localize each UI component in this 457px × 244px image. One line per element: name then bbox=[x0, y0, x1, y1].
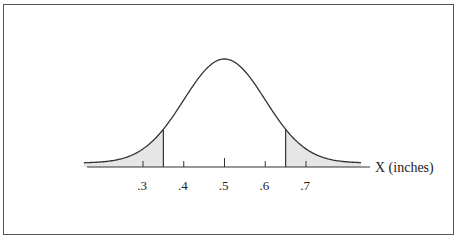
left-tail-shaded-region bbox=[84, 129, 163, 167]
x-tick-label: .7 bbox=[300, 178, 310, 193]
normal-curve-chart: .3.4.5.6.7 X (inches) bbox=[0, 0, 457, 244]
normal-curve bbox=[84, 59, 361, 163]
x-tick-label: .4 bbox=[178, 178, 188, 193]
x-axis-label: X (inches) bbox=[375, 160, 434, 176]
x-tick-label: .6 bbox=[259, 178, 269, 193]
x-tick-label: .3 bbox=[137, 178, 147, 193]
right-tail-shaded-region bbox=[286, 129, 361, 167]
x-tick-label: .5 bbox=[219, 178, 229, 193]
